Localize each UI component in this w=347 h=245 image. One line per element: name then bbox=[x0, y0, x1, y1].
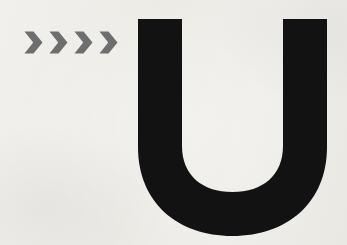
chevron-icon-3 bbox=[75, 32, 93, 54]
letter-u-group bbox=[138, 19, 327, 236]
chevron-icon-4 bbox=[100, 32, 118, 54]
chevron-group bbox=[25, 32, 118, 54]
chevron-icon-1 bbox=[25, 32, 43, 54]
letter-u-glyph bbox=[138, 19, 327, 236]
image-canvas: >>>> U Minimal graphic: four gray right-… bbox=[0, 0, 347, 245]
graphic-artwork bbox=[0, 0, 347, 245]
chevron-icon-2 bbox=[50, 32, 68, 54]
